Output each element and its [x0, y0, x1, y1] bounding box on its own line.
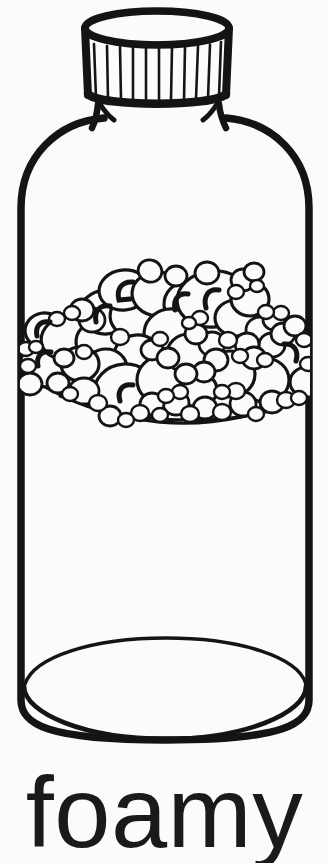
bottle-base	[24, 637, 306, 739]
cap-ridges	[94, 42, 221, 101]
bottle-body	[21, 118, 309, 740]
bottle-cap	[85, 11, 229, 104]
foam-cluster	[18, 257, 324, 427]
bottle-illustration	[0, 0, 329, 863]
page-title: foamy	[0, 762, 329, 863]
illustration-page: foamy	[0, 0, 329, 863]
